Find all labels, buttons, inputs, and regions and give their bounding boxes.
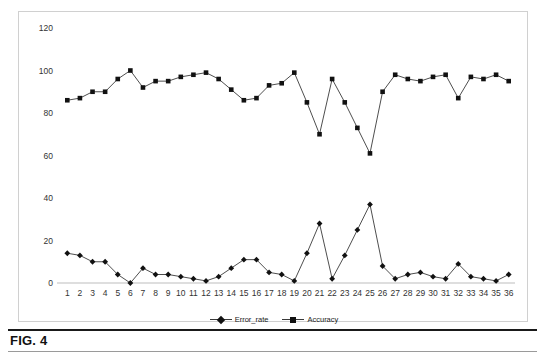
data-point[interactable] — [115, 77, 120, 82]
data-point[interactable] — [494, 72, 499, 77]
data-point[interactable] — [506, 79, 511, 84]
data-point[interactable] — [279, 272, 285, 278]
data-point[interactable] — [241, 257, 247, 263]
legend-marker-diamond-icon — [210, 315, 232, 324]
data-point[interactable] — [204, 70, 209, 75]
figure-caption-label: FIG. 4 — [10, 333, 47, 348]
data-point[interactable] — [305, 100, 310, 105]
data-point[interactable] — [317, 221, 323, 227]
data-point[interactable] — [254, 96, 259, 101]
data-point[interactable] — [165, 272, 171, 278]
data-point[interactable] — [380, 89, 385, 94]
data-point[interactable] — [330, 77, 335, 82]
data-point[interactable] — [368, 151, 373, 156]
y-axis-tick-label: 0 — [19, 278, 53, 288]
data-point[interactable] — [506, 272, 512, 278]
series-line-accuracy — [67, 71, 508, 154]
caption-divider-bottom — [8, 351, 537, 352]
data-point[interactable] — [153, 272, 159, 278]
data-point[interactable] — [405, 272, 411, 278]
legend-item-error-rate[interactable]: Error_rate — [210, 315, 269, 324]
y-axis-tick-label: 40 — [19, 193, 53, 203]
chart-legend: Error_rate Accuracy — [19, 315, 529, 324]
series-line-error_rate — [67, 204, 508, 283]
data-point[interactable] — [481, 276, 487, 282]
data-point[interactable] — [242, 98, 247, 103]
data-point[interactable] — [342, 100, 347, 105]
data-point[interactable] — [216, 77, 221, 82]
data-point[interactable] — [329, 276, 335, 282]
caption-divider-top — [8, 329, 537, 331]
data-point[interactable] — [103, 89, 108, 94]
chart-plot-area: Error_rate Accuracy 02040608010012012345… — [18, 11, 528, 322]
data-point[interactable] — [469, 75, 474, 80]
data-point[interactable] — [393, 72, 398, 77]
data-point[interactable] — [229, 87, 234, 92]
data-point[interactable] — [216, 274, 222, 280]
data-point[interactable] — [64, 250, 70, 256]
data-point[interactable] — [191, 276, 197, 282]
data-point[interactable] — [267, 83, 272, 88]
data-point[interactable] — [78, 96, 83, 101]
data-point[interactable] — [354, 227, 360, 233]
y-axis-tick-label: 80 — [19, 108, 53, 118]
data-point[interactable] — [342, 252, 348, 258]
y-axis-tick-label: 120 — [19, 23, 53, 33]
data-point[interactable] — [179, 75, 184, 80]
data-point[interactable] — [481, 77, 486, 82]
data-point[interactable] — [443, 72, 448, 77]
data-point[interactable] — [430, 274, 436, 280]
y-axis-tick-label: 60 — [19, 151, 53, 161]
data-point[interactable] — [367, 201, 373, 207]
data-point[interactable] — [90, 259, 96, 265]
chart-svg — [19, 12, 527, 321]
data-point[interactable] — [228, 265, 234, 271]
x-axis-tick-label: 36 — [500, 288, 518, 298]
data-point[interactable] — [456, 96, 461, 101]
y-axis-tick-label: 20 — [19, 236, 53, 246]
data-point[interactable] — [279, 81, 284, 86]
data-point[interactable] — [418, 79, 423, 84]
data-point[interactable] — [191, 72, 196, 77]
data-point[interactable] — [355, 126, 360, 131]
data-point[interactable] — [406, 77, 411, 82]
legend-marker-square-icon — [282, 315, 304, 324]
data-point[interactable] — [128, 68, 133, 73]
y-axis-tick-label: 100 — [19, 66, 53, 76]
data-point[interactable] — [178, 274, 184, 280]
data-point[interactable] — [418, 269, 424, 275]
data-point[interactable] — [153, 79, 158, 84]
data-point[interactable] — [77, 252, 83, 258]
data-point[interactable] — [166, 79, 171, 84]
data-point[interactable] — [317, 132, 322, 137]
data-point[interactable] — [292, 70, 297, 75]
legend-item-accuracy[interactable]: Accuracy — [282, 315, 338, 324]
figure-container: Error_rate Accuracy 02040608010012012345… — [0, 0, 545, 357]
data-point[interactable] — [431, 75, 436, 80]
legend-label-accuracy: Accuracy — [307, 315, 338, 324]
legend-label-error-rate: Error_rate — [235, 315, 269, 324]
data-point[interactable] — [90, 89, 95, 94]
data-point[interactable] — [141, 85, 146, 90]
data-point[interactable] — [304, 250, 310, 256]
data-point[interactable] — [65, 98, 70, 103]
